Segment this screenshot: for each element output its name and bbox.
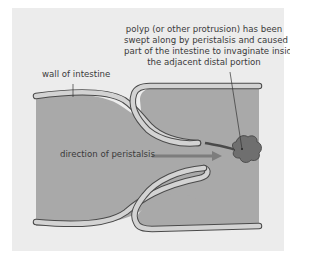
polyp-label-line-4: the adjacent distal portion	[124, 57, 284, 68]
direction-of-peristalsis-label: direction of peristalsis	[60, 149, 155, 160]
polyp-label-line-3: part of the intestine to invaginate insi…	[124, 46, 284, 57]
polyp-label: polyp (or other protrusion) has been swe…	[124, 24, 284, 68]
wall-of-intestine-label: wall of intestine	[42, 69, 110, 80]
polyp-label-line-2: swept along by peristalsis and caused	[124, 35, 284, 46]
polyp-label-line-1: polyp (or other protrusion) has been	[124, 24, 284, 35]
